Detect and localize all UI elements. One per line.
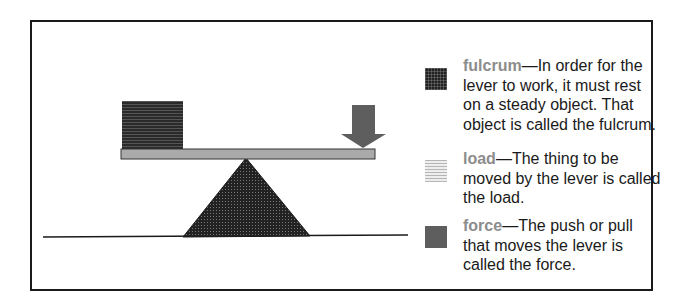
legend-text: force—The push or pull that moves the le…	[463, 216, 663, 275]
force-swatch-icon	[425, 226, 447, 248]
fulcrum-triangle	[183, 158, 310, 237]
legend-text: fulcrum—In order for the lever to work, …	[463, 56, 663, 134]
legend-term: force	[463, 217, 502, 234]
force-arrow-icon	[341, 105, 386, 148]
legend-term: load	[463, 150, 496, 167]
legend-text: load—The thing to be moved by the lever …	[463, 149, 663, 208]
legend-term: fulcrum	[463, 57, 522, 74]
fulcrum-swatch-icon	[425, 68, 447, 90]
lever-plank	[121, 149, 375, 159]
load-box	[122, 101, 183, 150]
load-swatch-icon	[425, 160, 447, 182]
